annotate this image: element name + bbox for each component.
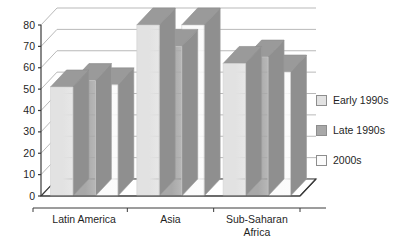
y-axis-tick-label: 80 bbox=[23, 19, 35, 31]
legend-item-early-1990s[interactable]: Early 1990s bbox=[316, 88, 408, 112]
bar-1-0 bbox=[137, 8, 175, 196]
y-axis-tick-label: 20 bbox=[23, 147, 35, 159]
legend-item-late-1990s[interactable]: Late 1990s bbox=[316, 118, 408, 142]
x-axis-category-label: Asia bbox=[160, 213, 181, 225]
y-axis-tick-label: 10 bbox=[23, 168, 35, 180]
legend-item-2000s[interactable]: 2000s bbox=[316, 148, 408, 172]
x-axis-category-label: Africa bbox=[243, 226, 270, 238]
bar-2-0 bbox=[223, 46, 261, 196]
y-axis-tick-label: 60 bbox=[23, 61, 35, 73]
legend-label-2000s: 2000s bbox=[333, 155, 362, 166]
bar-chart: 01020304050607080Latin AmericaAsiaSub-Sa… bbox=[0, 0, 409, 246]
y-axis-tick-label: 70 bbox=[23, 40, 35, 52]
legend-swatch-late-1990s bbox=[316, 125, 327, 136]
x-axis-category-label: Latin America bbox=[52, 213, 116, 225]
y-axis-tick-label: 40 bbox=[23, 104, 35, 116]
y-axis-tick-label: 0 bbox=[29, 190, 35, 202]
legend-label-late-1990s: Late 1990s bbox=[333, 125, 385, 136]
legend-swatch-early-1990s bbox=[316, 95, 327, 106]
chart-legend: Early 1990s Late 1990s 2000s bbox=[316, 88, 408, 178]
bar-0-0 bbox=[51, 70, 89, 196]
y-axis-tick-label: 30 bbox=[23, 125, 35, 137]
y-axis-tick-label: 50 bbox=[23, 83, 35, 95]
legend-label-early-1990s: Early 1990s bbox=[333, 95, 388, 106]
x-axis-category-label: Sub-Saharan bbox=[226, 213, 288, 225]
legend-swatch-2000s bbox=[316, 155, 327, 166]
